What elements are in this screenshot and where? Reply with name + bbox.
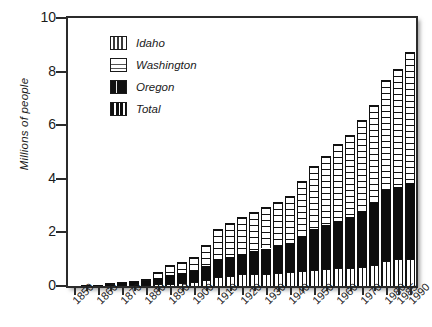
legend-item-washington[interactable]: Washington	[110, 55, 197, 75]
segment-washington	[333, 144, 343, 220]
bar-column	[69, 18, 79, 286]
segment-washington	[177, 262, 187, 273]
segment-washington	[297, 181, 307, 236]
segment-idaho	[357, 267, 367, 286]
y-tick-4	[56, 178, 66, 180]
segment-oregon	[213, 259, 223, 277]
segment-oregon	[393, 187, 403, 259]
idaho-swatch-icon	[110, 36, 127, 50]
bar-column	[381, 18, 391, 286]
washington-swatch-icon	[110, 58, 127, 72]
segment-oregon	[369, 203, 379, 264]
bar-column	[237, 18, 247, 286]
y-tick-label-6: 6	[16, 116, 56, 132]
bar-column	[369, 18, 379, 286]
segment-washington	[249, 212, 259, 251]
segment-washington	[369, 105, 379, 203]
segment-oregon	[357, 211, 367, 267]
segment-washington	[357, 120, 367, 211]
segment-oregon	[249, 251, 259, 274]
segment-oregon	[381, 190, 391, 260]
y-tick-8	[56, 71, 66, 73]
segment-oregon	[273, 246, 283, 273]
segment-oregon	[297, 236, 307, 271]
bar-column	[81, 18, 91, 286]
bar-column	[333, 18, 343, 286]
bar-column	[321, 18, 331, 286]
segment-washington	[393, 69, 403, 187]
segment-oregon	[261, 249, 271, 274]
segment-washington	[405, 52, 415, 183]
segment-oregon	[237, 254, 247, 275]
legend-label: Oregon	[136, 81, 174, 93]
segment-idaho	[189, 282, 199, 286]
bar-column	[261, 18, 271, 286]
legend-item-total[interactable]: Total	[110, 99, 197, 119]
segment-oregon	[117, 283, 127, 285]
legend-item-idaho[interactable]: Idaho	[110, 33, 197, 53]
legend-label: Washington	[136, 59, 197, 71]
bar-column	[201, 18, 211, 286]
bar-column	[393, 18, 403, 286]
segment-washington	[261, 207, 271, 249]
segment-oregon	[93, 285, 103, 286]
segment-oregon	[141, 281, 151, 286]
bar-column	[405, 18, 415, 286]
segment-washington	[273, 202, 283, 246]
y-tick-6	[56, 124, 66, 126]
y-tick-label-4: 4	[16, 170, 56, 186]
segment-washington	[153, 272, 163, 278]
segment-oregon	[405, 183, 415, 259]
y-tick-0	[56, 285, 66, 287]
segment-washington	[213, 229, 223, 260]
y-tick-2	[56, 231, 66, 233]
segment-idaho	[261, 274, 271, 286]
segment-washington	[309, 166, 319, 230]
segment-washington	[189, 257, 199, 271]
segment-washington	[285, 196, 295, 243]
segment-idaho	[213, 277, 223, 286]
segment-oregon	[345, 217, 355, 268]
segment-washington	[321, 156, 331, 225]
bar-column	[309, 18, 319, 286]
segment-washington	[345, 135, 355, 217]
bar-column	[273, 18, 283, 286]
bar-column	[345, 18, 355, 286]
segment-washington	[381, 80, 391, 191]
segment-oregon	[201, 266, 211, 280]
bar-column	[357, 18, 367, 286]
chart-legend: IdahoWashingtonOregonTotal	[110, 33, 197, 121]
bar-column	[213, 18, 223, 286]
segment-oregon	[165, 275, 175, 284]
segment-idaho	[165, 284, 175, 286]
y-tick-label-2: 2	[16, 223, 56, 239]
y-tick-label-8: 8	[16, 63, 56, 79]
y-tick-label-0: 0	[16, 277, 56, 293]
legend-label: Idaho	[136, 37, 165, 49]
segment-washington	[117, 282, 127, 283]
segment-washington	[225, 223, 235, 256]
bar-column	[249, 18, 259, 286]
legend-label: Total	[136, 103, 161, 115]
bar-column	[225, 18, 235, 286]
bar-column	[297, 18, 307, 286]
segment-idaho	[309, 270, 319, 286]
total-swatch-icon	[110, 102, 127, 116]
segment-oregon	[189, 271, 199, 282]
segment-oregon	[285, 243, 295, 272]
segment-oregon	[309, 229, 319, 270]
segment-idaho	[381, 261, 391, 286]
segment-oregon	[321, 225, 331, 269]
segment-idaho	[333, 268, 343, 286]
segment-oregon	[225, 257, 235, 277]
segment-idaho	[285, 272, 295, 286]
bar-column	[93, 18, 103, 286]
segment-washington	[141, 279, 151, 281]
segment-idaho	[237, 274, 247, 286]
y-tick-10	[56, 17, 66, 19]
y-tick-label-10: 10	[16, 9, 56, 25]
bar-column	[285, 18, 295, 286]
segment-washington	[237, 217, 247, 253]
legend-item-oregon[interactable]: Oregon	[110, 77, 197, 97]
